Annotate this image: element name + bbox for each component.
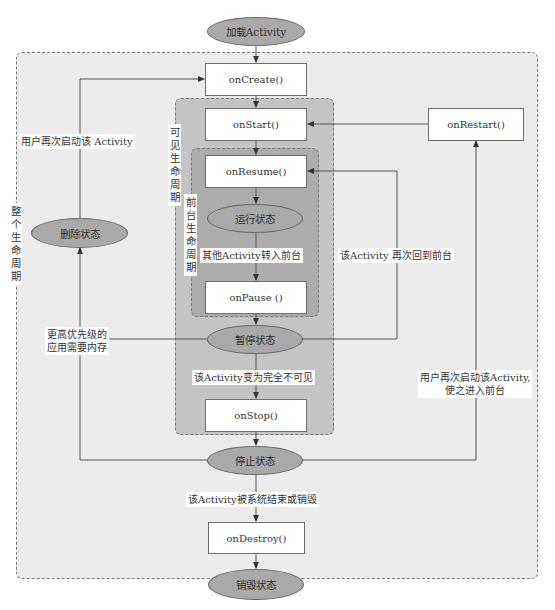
on-start-node: onStart() xyxy=(205,108,307,141)
on-pause-node: onPause () xyxy=(205,281,307,314)
back-to-front-label: 该Activity 再次回到前台 xyxy=(338,248,454,263)
destroyed-state: 销毁状态 xyxy=(208,569,304,600)
higher-priority-line2: 应用需要内存 xyxy=(47,341,107,354)
running-state: 运行状态 xyxy=(207,204,303,233)
on-create-node: onCreate() xyxy=(205,63,307,96)
entire-lifetime-label: 整个生命周期 xyxy=(9,203,22,285)
foreground-lifetime-label: 前台生命周期 xyxy=(184,194,197,276)
other-activity-front-label: 其他Activity转入前台 xyxy=(200,248,303,263)
user-restart-front-label: 用户再次启动该Activity, 使之进入前台 xyxy=(418,370,532,398)
fully-invisible-label: 该Activity变为完全不可见 xyxy=(192,370,315,385)
higher-priority-label: 更高优先级的 应用需要内存 xyxy=(45,327,109,355)
load-activity-state: 加载Activity xyxy=(207,17,305,46)
user-restart-front-line1: 用户再次启动该Activity, xyxy=(420,371,530,384)
on-restart-node: onRestart() xyxy=(428,108,524,141)
on-stop-node: onStop() xyxy=(205,399,307,432)
killed-state: 删除状态 xyxy=(31,218,128,248)
system-destroy-label: 该Activity被系统结束或销毁 xyxy=(186,492,319,507)
visible-lifetime-label: 可见生命周期 xyxy=(168,124,181,206)
paused-state: 暂停状态 xyxy=(207,325,303,354)
stopped-state: 停止状态 xyxy=(207,446,303,475)
user-restart-label: 用户再次启动该 Activity xyxy=(19,134,135,149)
on-destroy-node: onDestroy() xyxy=(208,522,305,554)
on-resume-node: onResume() xyxy=(205,155,307,188)
user-restart-front-line2: 使之进入前台 xyxy=(420,384,530,397)
higher-priority-line1: 更高优先级的 xyxy=(47,328,107,341)
